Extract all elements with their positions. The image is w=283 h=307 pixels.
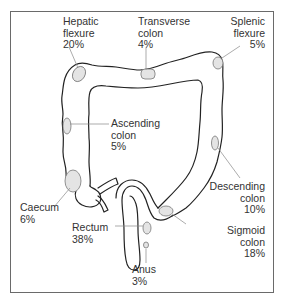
site-splenic-flexure [213,57,223,69]
leader-sigmoid-colon [172,214,186,224]
label-descending-colon: Descending colon 10% [210,181,265,216]
label-anus: Anus 3% [132,264,156,287]
site-sigmoid-colon [159,206,173,216]
label-hepatic-flexure: Hepatic flexure 20% [63,16,99,51]
site-transverse-colon [141,69,155,79]
label-splenic-flexure: Splenic flexure 5% [231,16,265,51]
site-ascending-colon [63,118,71,134]
rectum-wall [130,196,140,270]
site-rectum [143,222,151,234]
label-caecum: Caecum 6% [20,202,59,225]
caecum-wall [75,186,101,207]
label-sigmoid-colon: Sigmoid colon 18% [227,225,265,260]
site-caecum [65,170,81,192]
site-anus [144,242,149,248]
appendix [98,178,118,194]
label-ascending-colon: Ascending colon 5% [111,118,160,153]
label-transverse-colon: Transverse colon 4% [138,16,190,51]
leader-descending-colon [218,148,240,178]
site-descending-colon [212,136,219,150]
label-rectum: Rectum 38% [72,222,108,245]
